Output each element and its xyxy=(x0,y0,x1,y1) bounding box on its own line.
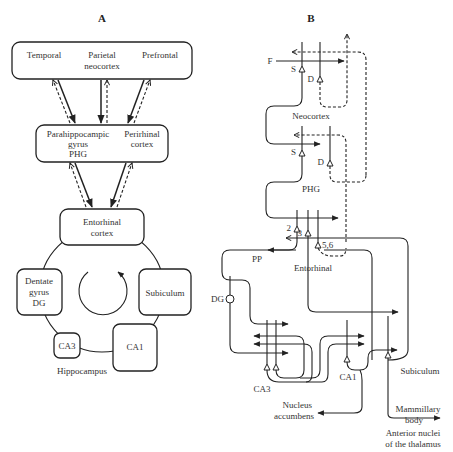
perirhinal-label-1: Perirhinal xyxy=(124,129,160,139)
d1-output-dashed xyxy=(320,34,347,107)
panel-b: B F S D Neocortex S D PHG xyxy=(211,12,441,449)
d1-neuron-icon xyxy=(317,76,323,82)
dg-label: DG xyxy=(211,294,224,304)
subiculum-label: Subiculum xyxy=(145,288,184,298)
subiculum-label: Subiculum xyxy=(400,366,439,376)
layer3-neuron-icon xyxy=(305,230,311,236)
phg-label-3: PHG xyxy=(69,149,88,159)
perirhinal-label-2: cortex xyxy=(131,139,154,149)
panel-a-title: A xyxy=(98,12,106,24)
parietal-label-1: Parietal xyxy=(88,50,116,60)
subiculum-neuron-icon xyxy=(385,352,391,358)
layer3-label: 3 xyxy=(298,228,303,238)
panel-a: A Temporal Parietal neocortex Prefrontal… xyxy=(12,12,192,376)
d2-label: D xyxy=(318,157,325,167)
s2-neuron-icon xyxy=(299,150,305,156)
f-label: F xyxy=(267,56,272,66)
phg-label: PHG xyxy=(302,184,321,194)
entorhinal-label-2: cortex xyxy=(91,228,114,238)
d1-label: D xyxy=(308,74,315,84)
ca3-label: CA3 xyxy=(58,341,76,351)
neocortex-label: Neocortex xyxy=(292,111,330,121)
s2-label: S xyxy=(291,147,296,157)
pp-arrow xyxy=(268,232,297,250)
mossy-fiber-arrow xyxy=(230,303,288,353)
ca3-recurrent-1 xyxy=(254,336,304,378)
ca1-label: CA1 xyxy=(339,372,356,382)
ca3-label: CA3 xyxy=(253,384,271,394)
nucleus-label-2: accumbens xyxy=(274,411,314,421)
pp-label: PP xyxy=(252,254,262,264)
dg-neuron-icon xyxy=(226,295,234,303)
temporal-label: Temporal xyxy=(27,50,62,60)
layer56-label: 5,6 xyxy=(322,240,334,250)
entorhinal-cortex-box xyxy=(60,209,144,245)
mammillary-label-2: body xyxy=(405,415,424,425)
parietal-label-2: neocortex xyxy=(84,61,120,71)
perirhinal-to-entorhinal-arrow xyxy=(111,163,126,207)
hippocampus-label: Hippocampus xyxy=(57,366,107,376)
circular-flow-arrow xyxy=(79,272,127,315)
dg-label-2: gyrus xyxy=(29,287,49,297)
entorhinal-label-1: Entorhinal xyxy=(83,217,121,227)
ca3-neuron-icon-1 xyxy=(264,364,270,370)
s1-label: S xyxy=(291,64,296,74)
d2-neuron-icon xyxy=(327,160,333,166)
dg-label-1: Dentate xyxy=(25,276,53,286)
prefrontal-label: Prefrontal xyxy=(142,50,178,60)
ca3-recurrent-2 xyxy=(254,344,312,382)
s1-neuron-icon xyxy=(299,66,305,72)
phg-to-temporal-arrow xyxy=(53,80,70,123)
entorhinal-label: Entorhinal xyxy=(294,263,332,273)
anterior-label-1: Anterior nuclei xyxy=(386,428,441,438)
anterior-label-2: of the thalamus xyxy=(385,439,441,449)
layer2-label: 2 xyxy=(287,223,292,233)
mammillary-label-1: Mammillary xyxy=(396,404,441,414)
nucleus-label-1: Nucleus xyxy=(283,400,313,410)
ca3-neuron-icon-2 xyxy=(273,364,279,370)
phg-label-2: gyrus xyxy=(68,139,88,149)
phg-label-1: Parahippocampic xyxy=(47,129,109,139)
dg-label-3: DG xyxy=(33,298,46,308)
ca1-label: CA1 xyxy=(126,342,143,352)
d2-output-dashed xyxy=(330,166,366,182)
ca1-neuron-icon xyxy=(344,356,350,362)
panel-b-title: B xyxy=(307,12,315,24)
temporal-to-phg-arrow xyxy=(58,80,75,123)
hippocampal-circuit-diagram: A Temporal Parietal neocortex Prefrontal… xyxy=(0,0,453,452)
layer56-neuron-icon xyxy=(315,242,321,248)
